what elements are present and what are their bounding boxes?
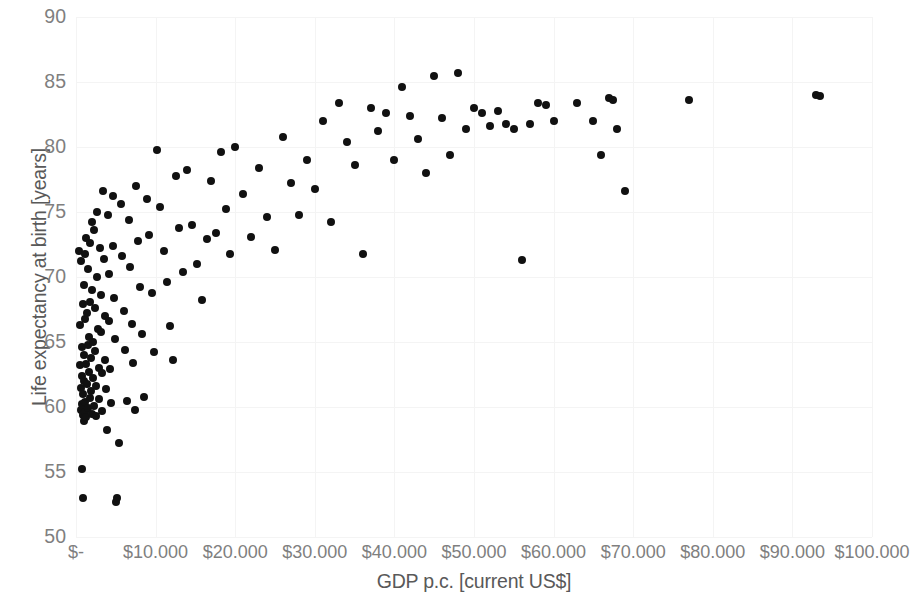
data-point	[88, 286, 96, 294]
data-point	[414, 135, 422, 143]
data-point	[118, 252, 126, 260]
data-point	[203, 235, 211, 243]
data-point	[502, 120, 510, 128]
x-axis-tick-label: $40.000	[362, 543, 427, 561]
y-axis-tick-labels: 505560657075808590	[0, 0, 66, 603]
data-point	[183, 166, 191, 174]
data-point	[121, 346, 129, 354]
data-point	[217, 148, 225, 156]
data-point	[526, 120, 534, 128]
data-point	[279, 133, 287, 141]
y-axis-tick-label: 85	[24, 72, 66, 92]
gridline-horizontal	[76, 537, 872, 538]
data-point	[81, 250, 89, 258]
data-point	[84, 265, 92, 273]
data-point	[98, 407, 106, 415]
data-point	[160, 247, 168, 255]
data-point	[534, 99, 542, 107]
data-point	[166, 322, 174, 330]
data-point	[198, 296, 206, 304]
data-point	[107, 399, 115, 407]
data-point	[129, 359, 137, 367]
data-point	[255, 164, 263, 172]
data-point	[101, 356, 109, 364]
data-point	[90, 402, 98, 410]
data-point	[93, 273, 101, 281]
data-point	[96, 244, 104, 252]
x-axis-tick-label: $50.000	[441, 543, 506, 561]
y-axis-tick-label: 90	[24, 7, 66, 27]
data-point	[374, 127, 382, 135]
data-point	[422, 169, 430, 177]
x-axis-title: GDP p.c. [current US$]	[76, 570, 872, 593]
data-point	[145, 231, 153, 239]
data-point	[79, 494, 87, 502]
data-point	[271, 246, 279, 254]
data-point	[518, 256, 526, 264]
data-point	[92, 382, 100, 390]
data-point	[390, 156, 398, 164]
data-point	[104, 211, 112, 219]
data-point	[128, 320, 136, 328]
data-point	[103, 426, 111, 434]
x-axis-tick-label: $60.000	[521, 543, 586, 561]
data-point	[351, 161, 359, 169]
data-point	[100, 255, 108, 263]
data-point	[120, 307, 128, 315]
data-point	[106, 365, 114, 373]
data-point	[510, 125, 518, 133]
data-point	[179, 268, 187, 276]
data-point	[550, 117, 558, 125]
data-point	[398, 83, 406, 91]
data-point	[589, 117, 597, 125]
data-point	[143, 195, 151, 203]
data-point	[148, 289, 156, 297]
data-point	[462, 125, 470, 133]
data-point	[226, 250, 234, 258]
data-point	[478, 109, 486, 117]
data-point	[430, 72, 438, 80]
data-point	[263, 213, 271, 221]
data-point	[359, 250, 367, 258]
data-point	[327, 218, 335, 226]
data-point	[134, 237, 142, 245]
data-point	[153, 146, 161, 154]
data-point	[105, 317, 113, 325]
data-point	[621, 187, 629, 195]
data-point	[131, 406, 139, 414]
data-point	[88, 218, 96, 226]
data-point	[86, 239, 94, 247]
data-points-layer	[76, 17, 872, 537]
data-point	[123, 397, 131, 405]
data-point	[150, 348, 158, 356]
data-point	[83, 309, 91, 317]
data-point	[77, 257, 85, 265]
x-axis-tick-label: $-	[68, 543, 84, 561]
data-point	[86, 394, 94, 402]
data-point	[231, 143, 239, 151]
data-point	[156, 203, 164, 211]
data-point	[113, 494, 121, 502]
y-axis-tick-label: 65	[24, 332, 66, 352]
data-point	[367, 104, 375, 112]
data-point	[91, 347, 99, 355]
data-point	[97, 291, 105, 299]
data-point	[102, 385, 110, 393]
data-point	[140, 393, 148, 401]
y-axis-tick-label: 80	[24, 137, 66, 157]
data-point	[109, 242, 117, 250]
data-point	[287, 179, 295, 187]
data-point	[382, 109, 390, 117]
data-point	[438, 114, 446, 122]
data-point	[125, 216, 133, 224]
data-point	[685, 96, 693, 104]
data-point	[109, 192, 117, 200]
data-point	[98, 369, 106, 377]
data-point	[89, 338, 97, 346]
plot-area	[76, 17, 872, 537]
data-point	[78, 465, 86, 473]
data-point	[406, 112, 414, 120]
y-axis-tick-label: 55	[24, 462, 66, 482]
data-point	[172, 172, 180, 180]
data-point	[163, 278, 171, 286]
